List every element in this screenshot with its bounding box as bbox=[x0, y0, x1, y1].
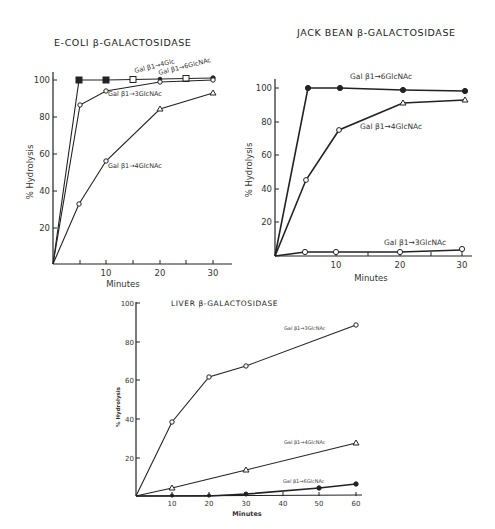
marker-filled-square bbox=[76, 77, 82, 83]
annotation-4glcnac: Gal β1→4GlcNAc bbox=[108, 162, 162, 170]
marker-open-circle bbox=[304, 178, 309, 183]
y-tick-label: 100 bbox=[256, 83, 272, 93]
x-axis-label: Minutes bbox=[354, 273, 388, 283]
x-axis-label: Minutes bbox=[232, 510, 261, 518]
x-tick-label: 10 bbox=[331, 260, 342, 270]
x-tick-label: 20 bbox=[155, 268, 166, 278]
marker-open-circle bbox=[244, 364, 248, 368]
figure-canvas: E-COLI β-GALACTOSIDASE 100 80 60 40 20 1… bbox=[0, 0, 495, 529]
y-ticks bbox=[136, 303, 140, 458]
marker-filled-circle bbox=[170, 494, 173, 497]
marker-open-circle bbox=[459, 246, 464, 251]
x-tick-label: 30 bbox=[208, 268, 219, 278]
marker-open-circle bbox=[78, 103, 82, 107]
marker-open-square bbox=[130, 77, 136, 83]
y-tick-label: 20 bbox=[39, 223, 50, 233]
marker-open-circle bbox=[354, 323, 358, 327]
x-axis-label: Minutes bbox=[106, 279, 140, 289]
y-tick-label: 40 bbox=[261, 184, 272, 194]
y-tick-label: 80 bbox=[39, 112, 50, 122]
marker-filled-circle bbox=[337, 85, 342, 90]
y-tick-label: 100 bbox=[34, 75, 50, 85]
marker-filled-circle bbox=[400, 87, 405, 92]
marker-open-circle bbox=[302, 249, 307, 254]
chart-liver: LIVER β-GALACTOSIDASE 100 80 60 40 20 10… bbox=[115, 299, 362, 518]
x-tick-label: 20 bbox=[205, 500, 214, 508]
y-tick-label: 80 bbox=[125, 339, 134, 347]
annotation-6glcnac: Gal β1→6GlcNAc bbox=[283, 478, 325, 485]
marker-open-circle bbox=[397, 249, 402, 254]
y-tick-label: 60 bbox=[125, 377, 134, 385]
chart-ecoli: E-COLI β-GALACTOSIDASE 100 80 60 40 20 1… bbox=[25, 37, 232, 289]
annotation-6glcnac: Gal β1→6GlcNAc bbox=[350, 72, 412, 81]
marker-open-circle bbox=[170, 420, 174, 424]
y-tick-label: 60 bbox=[39, 149, 50, 159]
marker-open-triangle bbox=[210, 90, 216, 95]
y-tick-label: 20 bbox=[125, 455, 134, 463]
y-tick-label: 40 bbox=[39, 186, 50, 196]
annotation-4glcnac: Gal β1→4GlcNAc bbox=[284, 439, 326, 446]
marker-open-circle bbox=[211, 78, 215, 82]
y-tick-label: 40 bbox=[125, 416, 134, 424]
y-tick-label: 80 bbox=[261, 117, 272, 127]
chart-title: E-COLI β-GALACTOSIDASE bbox=[54, 37, 191, 48]
marker-filled-circle bbox=[207, 494, 210, 497]
marker-open-triangle bbox=[353, 440, 359, 445]
x-tick-label: 10 bbox=[168, 500, 177, 508]
x-tick-label: 30 bbox=[457, 260, 468, 270]
annotation-3glcnac: Gal β1→3GlcNAc bbox=[384, 238, 446, 247]
x-tick-label: 10 bbox=[101, 268, 112, 278]
marker-open-circle bbox=[333, 249, 338, 254]
marker-filled-circle bbox=[244, 492, 248, 496]
annotation-3glcnac: Gal β1→3GlcNAc bbox=[108, 90, 162, 98]
annotation-3glcnac: Gal β1→3GlcNAc bbox=[284, 325, 326, 332]
chart-title: JACK BEAN β-GALACTOSIDASE bbox=[296, 27, 456, 38]
series-6glcnac-line bbox=[275, 88, 465, 256]
y-tick-label: 100 bbox=[121, 300, 134, 308]
y-tick-label: 60 bbox=[261, 150, 272, 160]
marker-open-circle bbox=[77, 202, 81, 206]
x-tick-label: 40 bbox=[279, 500, 288, 508]
marker-filled-circle bbox=[354, 482, 358, 486]
x-tick-label: 20 bbox=[395, 260, 406, 270]
marker-open-circle bbox=[337, 128, 342, 133]
chart-jackbean: JACK BEAN β-GALACTOSIDASE 100 80 60 40 2… bbox=[244, 27, 472, 283]
x-tick-label: 60 bbox=[352, 500, 361, 508]
x-tick-label: 30 bbox=[242, 500, 251, 508]
y-axis-label: % Hydrolysis bbox=[244, 142, 254, 197]
annotation-4glcnac: Gal β1→4GlcNAc bbox=[360, 122, 422, 131]
y-axis-label: % Hydrolysis bbox=[115, 386, 122, 427]
y-axis-label: % Hydrolysis bbox=[25, 144, 35, 199]
x-tick-label: 50 bbox=[315, 500, 324, 508]
chart-title: LIVER β-GALACTOSIDASE bbox=[171, 299, 278, 308]
marker-open-circle bbox=[158, 80, 162, 84]
marker-filled-circle bbox=[305, 85, 310, 90]
marker-filled-circle bbox=[462, 88, 467, 93]
series-4glcnac-line bbox=[53, 93, 213, 264]
series-3glcnac-line bbox=[53, 80, 213, 264]
marker-open-circle bbox=[207, 375, 211, 379]
marker-filled-circle bbox=[317, 486, 321, 490]
y-tick-label: 20 bbox=[261, 217, 272, 227]
